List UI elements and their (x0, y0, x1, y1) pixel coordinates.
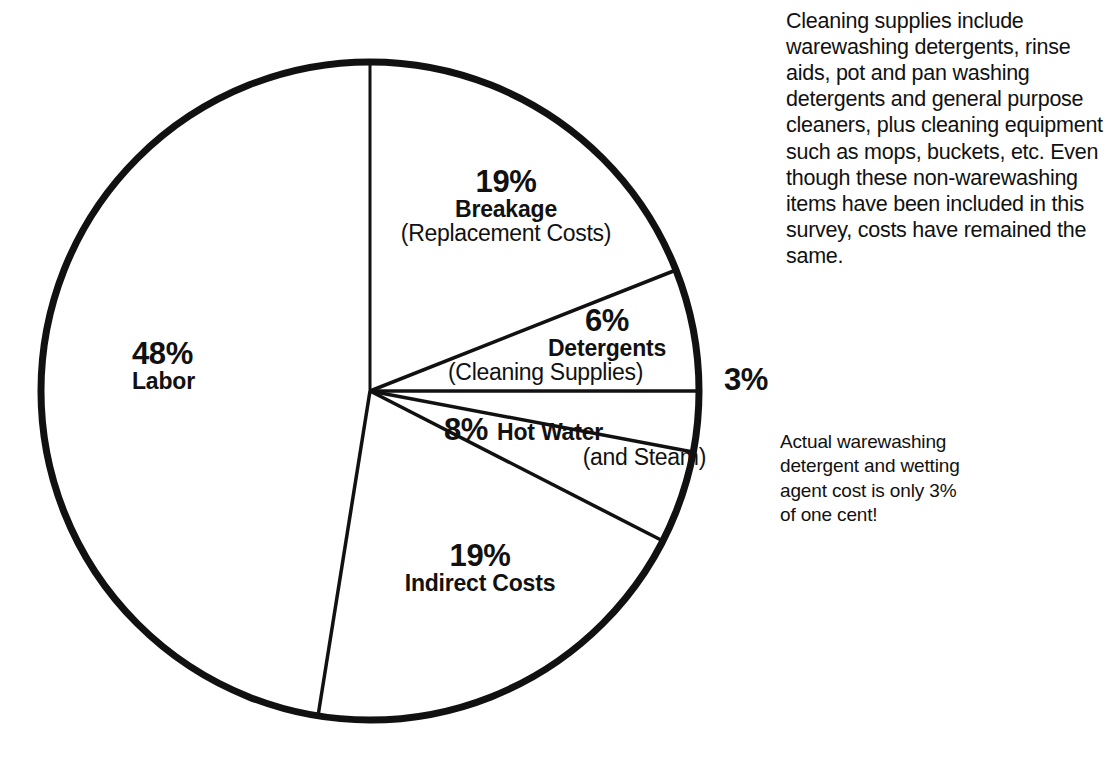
slice-percent-hot-water: 8% (444, 412, 488, 447)
slice-percent-breakage: 19% (356, 166, 656, 198)
slice-percent-warewashing-detergent: 3% (724, 362, 768, 398)
pie-chart-figure: 19% Breakage (Replacement Costs) 6% Dete… (0, 0, 1108, 758)
slice-category-indirect-costs: Indirect Costs (355, 572, 605, 596)
slice-percent-indirect-costs: 19% (355, 540, 605, 572)
slice-sublabel-hot-water: (and Steam) (444, 446, 712, 470)
slice-category-detergents: Detergents (448, 337, 730, 361)
slice-percent-labor: 48% (132, 338, 322, 370)
slice-label-hot-water: 8%Hot Water (and Steam) (444, 414, 712, 470)
slice-label-breakage: 19% Breakage (Replacement Costs) (356, 166, 656, 246)
slice-label-labor: 48% Labor (132, 338, 322, 394)
slice-label-indirect-costs: 19% Indirect Costs (355, 540, 605, 596)
slice-category-labor: Labor (132, 370, 322, 394)
slice-sublabel-breakage: (Replacement Costs) (356, 222, 656, 246)
slice-sublabel-detergents: (Cleaning Supplies) (448, 361, 730, 385)
slice-label-detergents: 6% Detergents (Cleaning Supplies) (448, 305, 730, 385)
slice-category-breakage: Breakage (356, 198, 656, 222)
note-cleaning-supplies: Cleaning supplies include warewashing de… (786, 8, 1106, 269)
slice-category-hot-water: Hot Water (497, 419, 603, 445)
note-actual-detergent-cost: Actual warewashing detergent and wetting… (780, 430, 960, 527)
slice-headline-hot-water: 8%Hot Water (444, 414, 712, 446)
slice-percent-detergents: 6% (448, 305, 730, 337)
